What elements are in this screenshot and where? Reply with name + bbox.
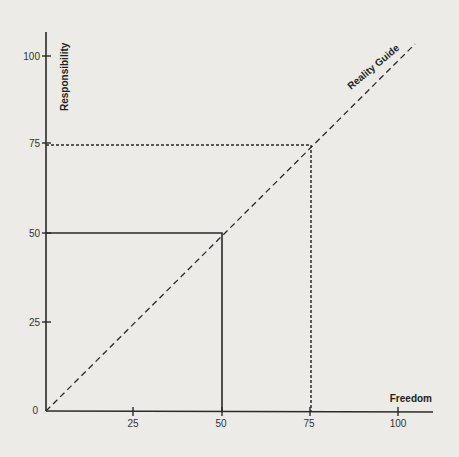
reality-guide-label: Reality Guide — [345, 42, 401, 92]
y-tick-label-50: 50 — [29, 228, 41, 239]
reality-guide-line — [46, 44, 415, 411]
y-tick-label-25: 25 — [29, 317, 41, 328]
x-tick-label-75: 75 — [303, 418, 315, 429]
y-tick-label-100: 100 — [23, 51, 40, 62]
x-tick-label-25: 25 — [127, 418, 139, 429]
y-tick-label-75: 75 — [29, 138, 41, 149]
origin-label: 0 — [32, 405, 38, 416]
chart: 100 75 50 25 0 25 50 75 100 Freedom Resp… — [0, 0, 459, 457]
x-axis — [46, 411, 433, 412]
x-axis-title: Freedom — [390, 393, 432, 404]
x-tick-label-50: 50 — [215, 418, 227, 429]
y-axis-title: Responsibility — [59, 42, 70, 111]
box-75 — [46, 145, 311, 411]
box-50 — [46, 233, 222, 411]
x-tick-label-100: 100 — [390, 418, 407, 429]
